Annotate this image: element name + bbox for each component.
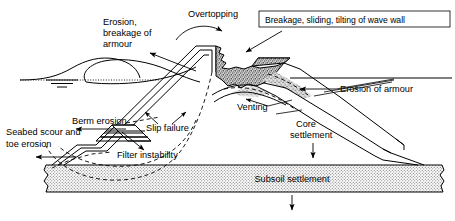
label-slip-failure: Slip failure xyxy=(146,123,189,133)
still-water-level-symbol xyxy=(20,80,160,87)
label-subsoil-settlement: Subsoil settlement xyxy=(254,174,330,184)
crest xyxy=(196,46,216,72)
annotation-overtopping: Overtopping xyxy=(176,9,238,40)
annotation-core-settlement: Core settlement xyxy=(290,119,333,158)
annotation-wave-wall: Breakage, sliding, tilting of wave wall xyxy=(246,11,450,52)
label-seabed-scour-1: Seabed scour and xyxy=(6,127,81,137)
label-overtopping: Overtopping xyxy=(188,9,238,19)
label-erosion-armour-2: breakage of xyxy=(103,28,152,38)
label-filter-instability: Filter instability xyxy=(117,150,178,160)
label-core-settlement-2: settlement xyxy=(290,130,333,140)
subsoil-layer xyxy=(44,165,444,192)
label-wave-wall: Breakage, sliding, tilting of wave wall xyxy=(265,15,405,25)
wave-wall-cap xyxy=(252,58,290,66)
label-seabed-scour-2: toe erosion xyxy=(6,139,51,149)
diagram-canvas: Overtopping Erosion, breakage of armour … xyxy=(0,0,455,221)
annotation-slip-failure: Slip failure xyxy=(145,112,189,133)
overtopping-arrow xyxy=(176,26,222,40)
label-erosion-armour-1: Erosion, xyxy=(103,17,137,27)
breakwater-failure-modes-diagram: Overtopping Erosion, breakage of armour … xyxy=(0,0,455,221)
annotation-erosion-breakage-armour: Erosion, breakage of armour xyxy=(103,17,196,71)
annotation-erosion-of-armour: Erosion of armour xyxy=(300,79,413,96)
label-core-settlement-1: Core xyxy=(296,119,316,129)
annotation-seabed-scour: Seabed scour and toe erosion xyxy=(6,127,81,157)
label-venting: Venting xyxy=(237,102,268,112)
label-berm-erosion: Berm erosion xyxy=(72,116,127,126)
label-erosion-armour-3: armour xyxy=(103,39,132,49)
wave-wall-leader xyxy=(246,31,282,52)
